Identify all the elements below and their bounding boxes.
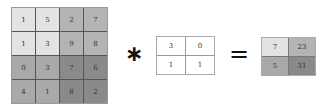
input-cell: 1 (12, 32, 35, 55)
input-cell: 5 (36, 8, 59, 31)
output-cell: 23 (289, 38, 315, 56)
input-cell: 7 (84, 8, 107, 31)
input-cell: 0 (12, 56, 35, 79)
convolution-operator-icon: ∗ (125, 43, 143, 65)
input-cell: 1 (36, 80, 59, 103)
input-cell: 3 (36, 32, 59, 55)
input-cell: 9 (60, 32, 83, 55)
kernel-matrix: 3 0 1 1 (156, 36, 215, 75)
input-cell: 2 (60, 8, 83, 31)
equals-operator-icon: = (229, 42, 249, 66)
kernel-cell: 1 (157, 56, 185, 74)
output-matrix: 7 23 5 31 (261, 37, 316, 76)
kernel-cell: 3 (157, 37, 185, 55)
input-cell: 8 (60, 80, 83, 103)
input-cell: 8 (84, 32, 107, 55)
kernel-cell: 1 (186, 56, 214, 74)
input-cell: 3 (36, 56, 59, 79)
input-cell: 2 (84, 80, 107, 103)
output-cell: 31 (289, 57, 315, 75)
kernel-cell: 0 (186, 37, 214, 55)
output-cell: 5 (262, 57, 288, 75)
input-cell: 6 (84, 56, 107, 79)
input-cell: 1 (12, 8, 35, 31)
output-cell: 7 (262, 38, 288, 56)
input-cell: 7 (60, 56, 83, 79)
input-cell: 4 (12, 80, 35, 103)
input-matrix: 1 5 2 7 1 3 9 8 0 3 7 6 4 1 8 2 (11, 7, 108, 104)
